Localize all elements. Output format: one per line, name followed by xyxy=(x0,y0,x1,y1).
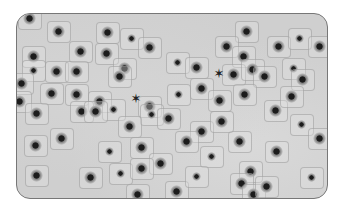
cell-nucleus xyxy=(190,61,203,74)
cell-nucleus xyxy=(258,70,271,83)
cell-nucleus xyxy=(233,135,246,148)
cell-nucleus xyxy=(135,162,148,175)
cell-nucleus xyxy=(100,47,113,60)
cell-nucleus xyxy=(272,40,285,53)
cell-nucleus xyxy=(238,88,251,101)
cell-nucleus xyxy=(135,141,148,154)
cell-nucleus xyxy=(154,157,167,170)
cell-nucleus xyxy=(84,171,97,184)
cell-nucleus xyxy=(195,82,208,95)
cell-nucleus xyxy=(30,107,43,120)
cell-nucleus xyxy=(109,105,118,114)
cell-nucleus xyxy=(74,45,87,58)
cell-nucleus xyxy=(116,169,125,178)
cell-nucleus xyxy=(227,68,240,81)
cell-nucleus xyxy=(220,40,233,53)
cell-nucleus xyxy=(240,25,253,38)
cell-nucleus xyxy=(45,87,58,100)
cell-nucleus xyxy=(192,172,201,181)
cell-nucleus xyxy=(23,13,36,25)
cell-nucleus xyxy=(113,70,126,83)
cell-nucleus xyxy=(207,152,216,161)
cell-nucleus xyxy=(105,147,114,156)
cell-nucleus xyxy=(162,112,175,125)
cell-nucleus xyxy=(295,34,304,43)
cell-nucleus xyxy=(131,188,144,200)
cell-nucleus xyxy=(29,139,42,152)
cell-nucleus xyxy=(147,110,156,119)
cell-nucleus xyxy=(50,65,63,78)
cell-nucleus xyxy=(297,120,306,129)
cell-nucleus xyxy=(260,180,273,193)
cell-nucleus xyxy=(307,173,316,182)
cell-nucleus xyxy=(30,169,43,182)
cell-nucleus xyxy=(70,65,83,78)
cell-nucleus xyxy=(55,132,68,145)
cell-nucleus xyxy=(123,120,136,133)
cell-nucleus xyxy=(101,26,114,39)
mitotic-figure: ✶ xyxy=(129,92,143,106)
cell-nucleus xyxy=(143,41,156,54)
cell-nucleus xyxy=(270,145,283,158)
cell-nucleus xyxy=(89,105,102,118)
cell-nucleus xyxy=(313,132,326,145)
cell-nucleus xyxy=(70,88,83,101)
cell-layer: ✶✶ xyxy=(17,14,327,198)
cell-nucleus xyxy=(127,34,136,43)
cell-nucleus xyxy=(180,135,193,148)
cell-nucleus xyxy=(52,25,65,38)
cell-nucleus xyxy=(173,58,182,67)
cell-nucleus xyxy=(313,40,326,53)
cell-nucleus xyxy=(215,115,228,128)
cell-nucleus xyxy=(296,73,309,86)
mitotic-figure: ✶ xyxy=(212,67,226,81)
cell-nucleus xyxy=(213,94,226,107)
cell-micrograph: ✶✶ xyxy=(16,13,328,199)
cell-nucleus xyxy=(170,185,183,198)
cell-nucleus xyxy=(16,77,28,90)
cell-nucleus xyxy=(285,90,298,103)
cell-nucleus xyxy=(174,90,183,99)
